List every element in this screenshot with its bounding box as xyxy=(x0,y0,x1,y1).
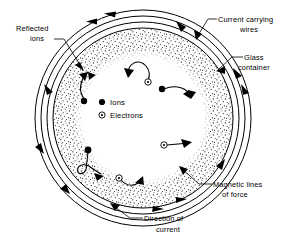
circled-dot-icon-center xyxy=(101,114,103,116)
ion-particle-icon xyxy=(85,147,92,154)
electron-particle-center xyxy=(118,177,120,179)
current-wires-line2: wires xyxy=(239,25,258,34)
legend-label-ions: Ions xyxy=(110,98,125,107)
reflected-ions-line1: Reflected xyxy=(16,24,49,33)
electron-particle-center xyxy=(147,81,149,83)
ion-particle-icon xyxy=(81,98,87,104)
filled-dot-icon xyxy=(99,99,105,105)
glass-container-line2: container xyxy=(238,63,270,72)
legend-label-electrons: Electrons xyxy=(110,111,143,120)
reflected-ions-line2: ions xyxy=(30,34,44,43)
direction-current-line1: Direction of xyxy=(144,214,184,223)
current-wires-line1: Current carrying xyxy=(218,15,273,24)
magnetic-confinement-diagram: Ions Electrons Reflected ions Current ca… xyxy=(0,0,285,242)
figure-container: Ions Electrons Reflected ions Current ca… xyxy=(0,0,285,242)
direction-current-line2: current xyxy=(156,225,180,234)
electron-particle-center xyxy=(163,144,165,146)
ion-particle-icon xyxy=(159,86,165,92)
glass-container-line1: Glass xyxy=(244,53,264,62)
magnetic-lines-line1: Magnetic lines xyxy=(213,180,262,189)
magnetic-lines-line2: of force xyxy=(222,190,248,199)
